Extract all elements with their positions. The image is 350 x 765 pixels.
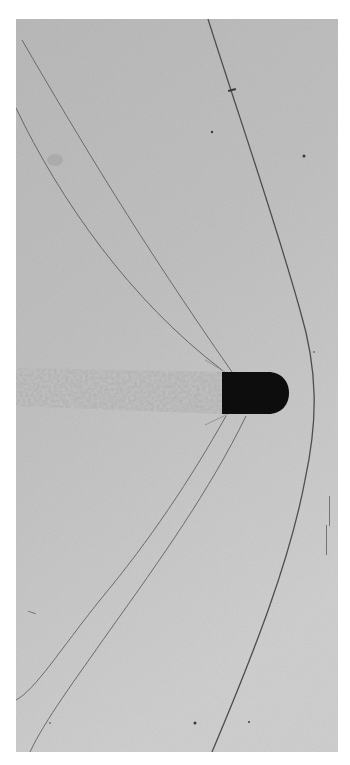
bullet	[222, 372, 289, 414]
photo-canvas	[0, 0, 350, 765]
shadowgraph-photo	[0, 0, 350, 765]
